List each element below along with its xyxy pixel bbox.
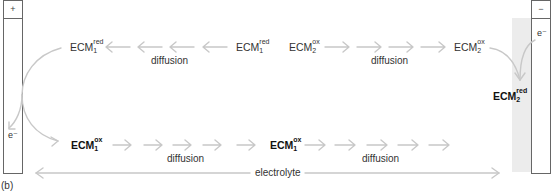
top-diffusion-label-left: diffusion bbox=[151, 56, 188, 66]
species-ecm2-red-product: ECMred2 bbox=[493, 91, 526, 102]
species-ecm1-ox-center: ECMox1 bbox=[270, 140, 303, 151]
electrolyte-label: electrolyte bbox=[255, 168, 301, 178]
species-ecm1-red-center: ECMred1 bbox=[236, 42, 269, 53]
figure-label: (b) bbox=[1, 181, 13, 191]
top-diffusion-label-right: diffusion bbox=[371, 56, 408, 66]
species-ecm2-ox-center: ECMox2 bbox=[289, 42, 322, 53]
species-ecm1-red-left: ECMred1 bbox=[70, 42, 103, 53]
positive-terminal-label: + bbox=[3, 0, 23, 18]
negative-terminal-label: − bbox=[531, 0, 551, 18]
bottom-diffusion-label-left: diffusion bbox=[167, 154, 204, 164]
left-electron-label: e⁻ bbox=[8, 131, 18, 140]
species-ecm2-ox-right: ECMox2 bbox=[454, 42, 487, 53]
bottom-arrows-2 bbox=[305, 140, 449, 150]
diagram-graphics bbox=[0, 0, 551, 192]
top-right-arrows bbox=[325, 42, 445, 52]
bottom-arrows-1 bbox=[113, 140, 255, 150]
left-electrode bbox=[4, 1, 23, 174]
top-left-arrows bbox=[106, 42, 227, 52]
bottom-diffusion-label-right: diffusion bbox=[362, 154, 399, 164]
species-ecm1-ox-left: ECMox1 bbox=[71, 140, 104, 151]
right-electron-label: e⁻ bbox=[537, 29, 547, 38]
right-electrode bbox=[532, 1, 551, 174]
